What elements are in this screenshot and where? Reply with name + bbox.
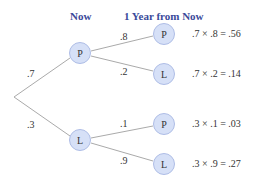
node-future-lp: P [153, 113, 175, 135]
result-lp: .3 × .1 = .03 [192, 118, 241, 129]
prob-lp: .1 [120, 118, 128, 129]
node-label: L [161, 159, 167, 170]
result-pp: .7 × .8 = .56 [192, 28, 241, 39]
prob-now-p: .7 [27, 68, 35, 79]
prob-pl: .2 [120, 66, 128, 77]
node-label: P [161, 119, 167, 130]
prob-now-l: .3 [27, 119, 35, 130]
node-future-pp: P [153, 23, 175, 45]
prob-ll: .9 [120, 155, 128, 166]
node-label: P [77, 48, 83, 59]
node-label: L [77, 135, 83, 146]
node-future-pl: L [153, 63, 175, 85]
node-now-p: P [69, 42, 91, 64]
node-label: P [161, 29, 167, 40]
node-label: L [161, 69, 167, 80]
result-ll: .3 × .9 = .27 [192, 158, 241, 169]
node-now-l: L [69, 129, 91, 151]
prob-pp: .8 [120, 31, 128, 42]
result-pl: .7 × .2 = .14 [192, 68, 241, 79]
node-future-ll: L [153, 153, 175, 175]
